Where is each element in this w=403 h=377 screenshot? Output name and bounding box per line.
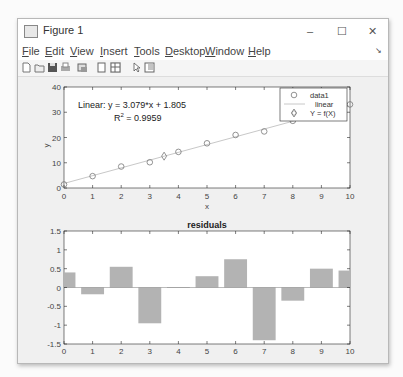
menu-insert[interactable]: Insert	[100, 45, 128, 57]
x-tick-label: 0	[62, 347, 67, 356]
print-icon[interactable]	[60, 62, 71, 73]
x-tick-label: 4	[176, 347, 181, 356]
plots-svg: 012345678910010203040xyLinear: y = 3.079…	[18, 77, 388, 363]
x-tick-label: 1	[90, 192, 95, 201]
title-bar[interactable]: Figure 1 – ☐ ✕	[18, 19, 388, 43]
window-title: Figure 1	[43, 24, 83, 36]
x-tick-label: 2	[119, 347, 124, 356]
menu-desktop[interactable]: Desktop	[165, 45, 205, 57]
menu-help[interactable]: Help	[248, 45, 271, 57]
y-tick-label: 0.5	[50, 265, 62, 274]
residual-bar	[281, 288, 304, 301]
legend-entry-data1: data1	[310, 91, 329, 100]
y-tick-label: 0	[57, 184, 62, 193]
x-tick-label: 6	[233, 347, 238, 356]
fit-plot-axes: 012345678910010203040xyLinear: y = 3.079…	[42, 83, 355, 211]
x-tick-label: 1	[90, 347, 95, 356]
residual-bar	[110, 267, 133, 288]
residual-bar	[138, 288, 161, 324]
y-tick-label: 10	[52, 159, 61, 168]
close-button[interactable]: ✕	[358, 22, 386, 40]
residual-bar	[196, 276, 219, 287]
residuals-plot-axes: residuals0123456789101.510.50-0.5-1-1.5	[47, 220, 355, 356]
residuals-title: residuals	[187, 220, 227, 230]
x-tick-label: 5	[205, 347, 210, 356]
x-tick-label: 6	[233, 192, 238, 201]
legend: data1linearY = f(X)	[280, 88, 347, 121]
property-inspector-icon[interactable]	[144, 62, 155, 73]
new-figure-icon[interactable]	[21, 62, 32, 73]
y-tick-label: -0.5	[47, 302, 61, 311]
menu-file[interactable]: File	[22, 45, 40, 57]
x-tick-label: 7	[262, 347, 267, 356]
residual-bar	[81, 288, 104, 295]
y-tick-label: -1.5	[47, 340, 61, 349]
menu-bar: File Edit View Insert Tools Desktop Wind…	[18, 43, 388, 60]
open-file-icon[interactable]	[34, 62, 45, 73]
x-tick-label: 5	[205, 192, 210, 201]
y-tick-label: 20	[52, 134, 61, 143]
minimize-button[interactable]: –	[296, 22, 324, 40]
legend-entry-linear: linear	[315, 100, 334, 109]
x-tick-label: 9	[319, 347, 324, 356]
residual-bar	[224, 259, 247, 287]
y-axis-label: y	[42, 144, 51, 148]
residual-bar	[339, 271, 350, 288]
x-tick-label: 9	[319, 192, 324, 201]
matlab-figure-icon	[24, 25, 38, 38]
x-tick-label: 10	[346, 347, 355, 356]
y-tick-label: 1	[57, 246, 62, 255]
menu-view[interactable]: View	[70, 45, 94, 57]
y-tick-label: 1.5	[50, 227, 62, 236]
x-axis-label: x	[205, 202, 209, 211]
x-tick-label: 10	[346, 192, 355, 201]
y-tick-label: -1	[54, 321, 62, 330]
y-tick-label: 30	[52, 108, 61, 117]
maximize-button[interactable]: ☐	[328, 22, 356, 40]
x-tick-label: 7	[262, 192, 267, 201]
dock-figure-icon[interactable]: ↘	[375, 46, 382, 55]
figure-canvas: 012345678910010203040xyLinear: y = 3.079…	[18, 77, 388, 363]
x-tick-label: 0	[62, 192, 67, 201]
x-tick-label: 3	[148, 192, 153, 201]
show-plot-tools-icon[interactable]	[110, 62, 121, 73]
menu-edit[interactable]: Edit	[45, 45, 64, 57]
residual-bar	[310, 269, 333, 288]
edit-plot-icon[interactable]	[131, 62, 142, 73]
menu-tools[interactable]: Tools	[134, 45, 160, 57]
y-tick-label: 0	[57, 284, 62, 293]
figure-toolbar	[18, 60, 388, 77]
x-tick-label: 8	[291, 347, 296, 356]
figure-window: Figure 1 – ☐ ✕ File Edit View Insert Too…	[17, 18, 389, 364]
legend-entry-yfx: Y = f(X)	[310, 109, 336, 118]
x-tick-label: 3	[148, 347, 153, 356]
residual-bar	[253, 288, 276, 341]
link-plot-icon[interactable]	[77, 62, 88, 73]
x-tick-label: 4	[176, 192, 181, 201]
hide-plot-tools-icon[interactable]	[96, 62, 107, 73]
x-tick-label: 8	[291, 192, 296, 201]
x-tick-label: 2	[119, 192, 124, 201]
y-tick-label: 40	[52, 83, 61, 92]
menu-window[interactable]: Window	[205, 45, 244, 57]
residual-bar	[64, 272, 75, 287]
save-icon[interactable]	[47, 62, 58, 73]
equation-annotation: Linear: y = 3.079*x + 1.805	[78, 100, 186, 110]
